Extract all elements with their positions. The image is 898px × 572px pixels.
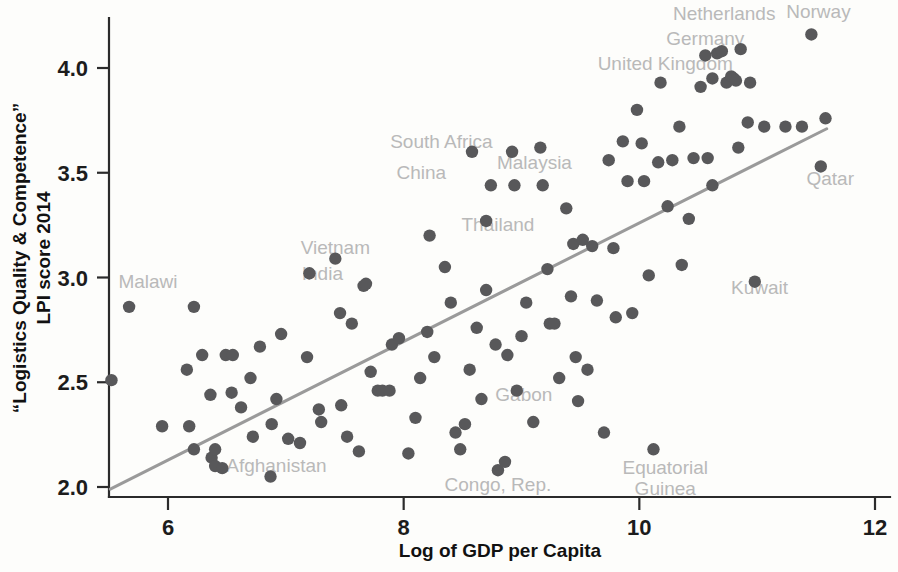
- data-point: [652, 156, 664, 168]
- point-labels-group: NetherlandsNorwayGermanyUnited KingdomSo…: [118, 1, 854, 500]
- data-point: [537, 179, 549, 191]
- data-point: [421, 326, 433, 338]
- data-point: [303, 267, 315, 279]
- y-axis-ticks: 2.02.53.03.54.0: [57, 56, 109, 500]
- point-label: Qatar: [806, 168, 854, 189]
- x-tick-label: 6: [162, 515, 174, 540]
- data-point: [742, 116, 754, 128]
- data-point: [610, 311, 622, 323]
- data-point: [815, 160, 827, 172]
- data-point: [673, 120, 685, 132]
- data-point: [334, 307, 346, 319]
- data-point: [188, 443, 200, 455]
- data-point: [341, 431, 353, 443]
- data-point: [227, 349, 239, 361]
- x-axis-ticks: 681012: [162, 497, 887, 540]
- data-point: [716, 45, 728, 57]
- trend-line: [110, 129, 826, 489]
- data-point: [275, 328, 287, 340]
- point-label: South Africa: [390, 131, 493, 152]
- data-point: [534, 141, 546, 153]
- data-point: [581, 363, 593, 375]
- point-label: Malawi: [118, 271, 177, 292]
- data-point: [626, 307, 638, 319]
- data-point: [294, 437, 306, 449]
- y-tick-label: 3.5: [57, 161, 88, 186]
- data-point: [188, 301, 200, 313]
- x-tick-label: 8: [398, 515, 410, 540]
- data-point: [796, 120, 808, 132]
- data-point: [196, 349, 208, 361]
- data-point: [779, 120, 791, 132]
- data-point: [643, 269, 655, 281]
- data-point: [511, 384, 523, 396]
- data-point: [744, 76, 756, 88]
- data-point: [105, 374, 117, 386]
- data-point: [225, 387, 237, 399]
- data-point: [572, 395, 584, 407]
- data-point: [409, 412, 421, 424]
- data-point: [758, 120, 770, 132]
- data-point: [527, 416, 539, 428]
- x-tick-label: 10: [627, 515, 651, 540]
- data-point: [706, 72, 718, 84]
- data-point: [360, 278, 372, 290]
- data-point: [548, 317, 560, 329]
- data-point: [335, 399, 347, 411]
- data-point: [499, 456, 511, 468]
- data-point: [699, 49, 711, 61]
- data-point: [734, 43, 746, 55]
- point-label: Norway: [786, 1, 851, 22]
- y-tick-label: 2.0: [57, 475, 88, 500]
- data-point: [694, 81, 706, 93]
- point-label: Equatorial: [622, 457, 708, 478]
- data-point: [687, 152, 699, 164]
- plot-axes: [109, 18, 890, 497]
- scatter-plot: 2.02.53.03.54.0 681012 NetherlandsNorway…: [0, 0, 898, 572]
- data-point: [607, 242, 619, 254]
- data-point: [466, 146, 478, 158]
- chart-figure: 2.02.53.03.54.0 681012 NetherlandsNorway…: [0, 0, 898, 572]
- data-point: [301, 351, 313, 363]
- data-point: [216, 462, 228, 474]
- data-point: [123, 301, 135, 313]
- point-label: Thailand: [461, 214, 534, 235]
- data-point: [414, 372, 426, 384]
- data-point: [183, 420, 195, 432]
- data-point: [553, 372, 565, 384]
- data-point: [631, 104, 643, 116]
- data-point: [647, 443, 659, 455]
- point-label: Congo, Rep.: [445, 474, 552, 495]
- point-label: Guinea: [635, 478, 697, 499]
- data-point: [204, 389, 216, 401]
- data-points-group: [105, 28, 831, 482]
- data-point: [209, 443, 221, 455]
- point-label: Afghanistan: [226, 455, 326, 476]
- data-point: [463, 363, 475, 375]
- data-point: [247, 431, 259, 443]
- data-point: [181, 363, 193, 375]
- point-label: Netherlands: [673, 3, 775, 24]
- data-point: [501, 349, 513, 361]
- data-point: [586, 240, 598, 252]
- data-point: [471, 322, 483, 334]
- data-point: [264, 470, 276, 482]
- data-point: [749, 275, 761, 287]
- data-point: [270, 393, 282, 405]
- data-point: [706, 179, 718, 191]
- data-point: [541, 263, 553, 275]
- data-point: [661, 200, 673, 212]
- data-point: [254, 340, 266, 352]
- data-point: [346, 317, 358, 329]
- data-point: [683, 213, 695, 225]
- point-label: Gabon: [495, 384, 552, 405]
- data-point: [393, 332, 405, 344]
- data-point: [423, 229, 435, 241]
- data-point: [445, 296, 457, 308]
- data-point: [459, 418, 471, 430]
- y-tick-label: 3.0: [57, 266, 88, 291]
- data-point: [485, 179, 497, 191]
- data-point: [515, 330, 527, 342]
- data-point: [454, 443, 466, 455]
- data-point: [313, 403, 325, 415]
